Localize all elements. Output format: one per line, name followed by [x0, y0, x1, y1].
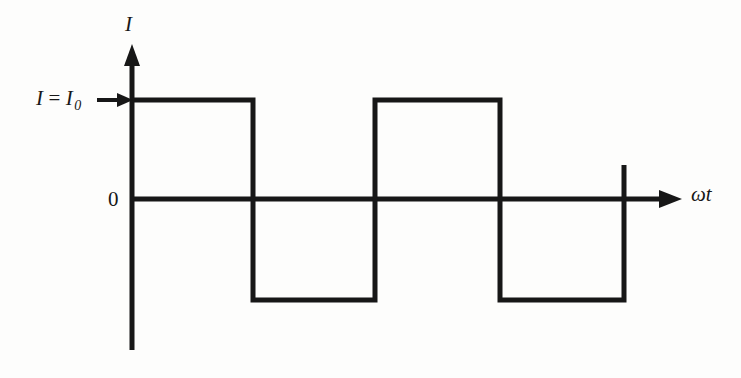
amplitude-label-equals: =: [45, 86, 66, 110]
x-axis-arrowhead: [659, 190, 682, 208]
y-axis-arrowhead: [124, 44, 140, 66]
y-axis-label: I: [125, 12, 132, 37]
origin-label: 0: [108, 187, 119, 212]
figure-square-wave: I ωt 0 I=I0: [0, 0, 741, 378]
amplitude-callout-arrow: [97, 93, 133, 107]
axes-group: [124, 44, 682, 350]
x-axis-label: ωt: [691, 182, 712, 207]
amplitude-label: I=I0: [36, 86, 81, 114]
amplitude-label-subscript: 0: [74, 98, 81, 113]
amplitude-label-prefix: I: [36, 86, 45, 110]
